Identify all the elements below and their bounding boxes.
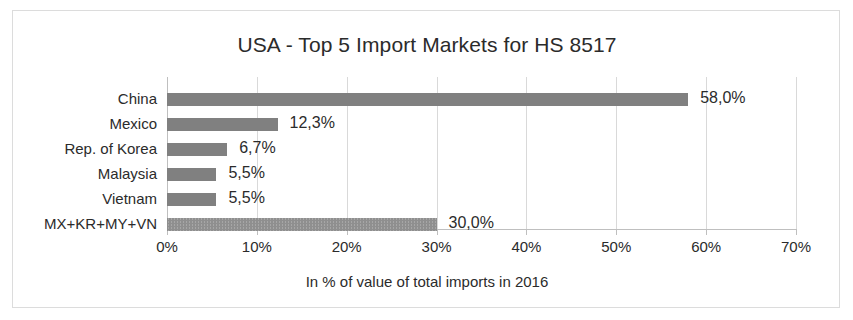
bar-row: 30,0%	[167, 212, 796, 237]
bar[interactable]	[167, 143, 227, 156]
bar-row: 5,5%	[167, 162, 796, 187]
plot-area: 58,0%12,3%6,7%5,5%5,5%30,0%	[167, 77, 796, 229]
bar-value-label: 5,5%	[228, 189, 264, 207]
bar[interactable]	[167, 93, 688, 106]
chart-container: USA - Top 5 Import Markets for HS 8517 5…	[12, 10, 840, 308]
bar[interactable]	[167, 168, 216, 181]
bar-row: 5,5%	[167, 187, 796, 212]
x-axis-tick-label: 40%	[496, 238, 556, 255]
gridline	[796, 77, 797, 229]
bar[interactable]	[167, 193, 216, 206]
bar-value-label: 12,3%	[290, 114, 335, 132]
bar-row: 6,7%	[167, 137, 796, 162]
x-axis-tick-label: 30%	[407, 238, 467, 255]
category-label: Rep. of Korea	[0, 140, 157, 157]
x-axis-tick-label: 10%	[227, 238, 287, 255]
x-axis-title: In % of value of total imports in 2016	[13, 273, 841, 290]
bar-row: 58,0%	[167, 87, 796, 112]
bar-value-label: 5,5%	[228, 164, 264, 182]
bar-value-label: 58,0%	[700, 89, 745, 107]
bar-value-label: 30,0%	[449, 214, 494, 232]
x-axis-tick-label: 20%	[317, 238, 377, 255]
x-axis-tick	[796, 230, 797, 235]
bar-row: 12,3%	[167, 112, 796, 137]
chart-title: USA - Top 5 Import Markets for HS 8517	[13, 33, 841, 57]
x-axis-tick-label: 70%	[766, 238, 826, 255]
bar[interactable]	[167, 118, 278, 131]
x-axis-tick-label: 60%	[676, 238, 736, 255]
category-label: MX+KR+MY+VN	[0, 215, 157, 232]
bar-value-label: 6,7%	[239, 139, 275, 157]
bar[interactable]	[167, 218, 437, 231]
category-label: China	[0, 90, 157, 107]
category-label: Mexico	[0, 115, 157, 132]
category-label: Malaysia	[0, 165, 157, 182]
x-axis-tick-label: 50%	[586, 238, 646, 255]
category-label: Vietnam	[0, 190, 157, 207]
x-axis-tick-label: 0%	[137, 238, 197, 255]
